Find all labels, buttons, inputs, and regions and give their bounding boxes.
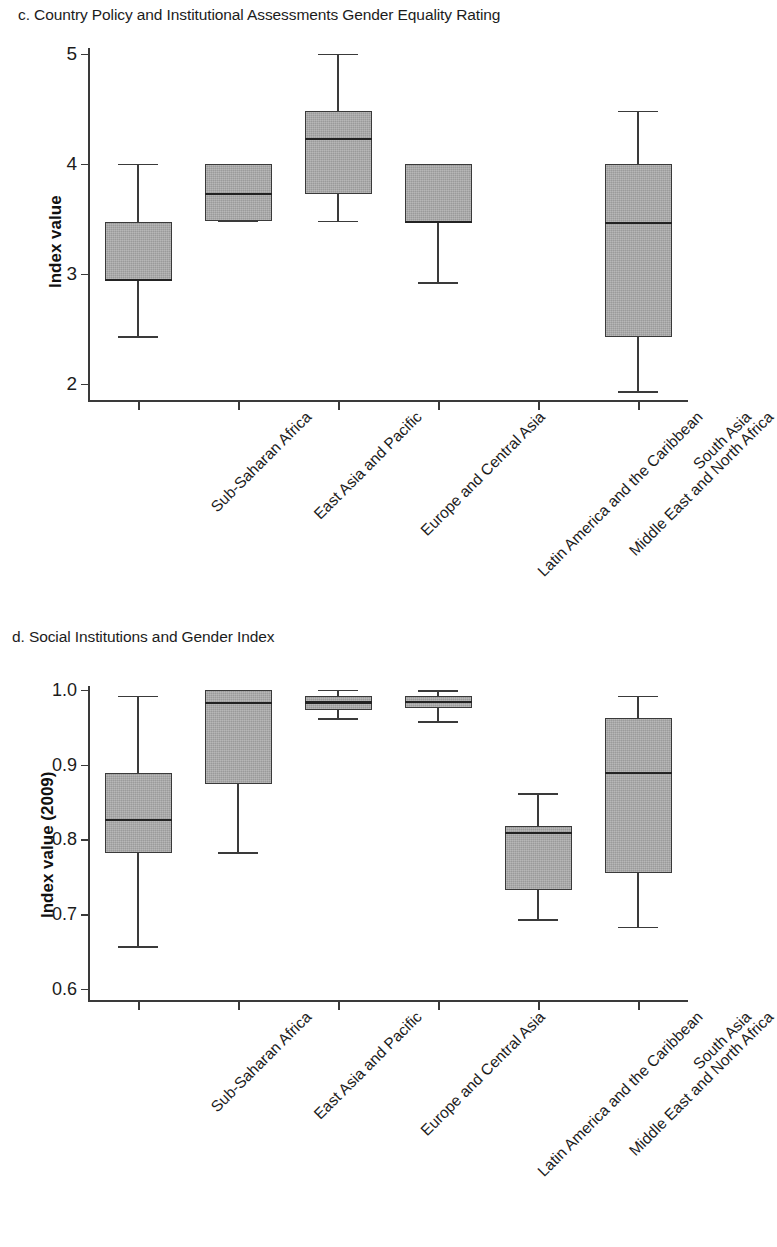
x-axis-tick (538, 1002, 540, 1010)
x-axis-category-label: Sub-Saharan Africa (207, 1008, 315, 1116)
x-axis-tick (238, 402, 240, 410)
box (605, 164, 672, 338)
whisker-cap-upper (618, 111, 658, 113)
y-axis-tick-label: 4 (66, 153, 77, 175)
median-line (205, 702, 272, 704)
median-line (305, 138, 372, 140)
y-axis-tick-label: 2 (66, 373, 77, 395)
x-axis-tick (238, 1002, 240, 1010)
whisker-cap-lower (318, 221, 358, 223)
x-axis-category-label: East Asia and Pacific (310, 1008, 425, 1123)
y-axis-tick-label: 5 (66, 43, 77, 65)
y-axis-title: Index value (46, 195, 66, 288)
median-line (605, 222, 672, 224)
y-axis-tick (81, 839, 88, 841)
boxplot-chart-c: 2345Index valueSub-Saharan AfricaEast As… (0, 0, 696, 420)
whisker-cap-upper (418, 690, 458, 692)
whisker-cap-lower (118, 336, 158, 338)
whisker-cap-upper (318, 690, 358, 692)
x-axis-line (88, 1000, 688, 1002)
box (605, 718, 672, 873)
x-axis-tick (138, 402, 140, 410)
y-axis-tick (81, 690, 88, 692)
whisker-cap-lower (318, 718, 358, 720)
y-axis-tick (81, 54, 88, 56)
whisker-cap-lower (418, 282, 458, 284)
median-line (305, 701, 372, 703)
x-axis-category-label: Middle East and North Africa (626, 408, 777, 560)
whisker-cap-lower (618, 927, 658, 929)
y-axis-tick (81, 765, 88, 767)
median-line (105, 279, 172, 281)
x-axis-category-label: Middle East and North Africa (626, 1008, 777, 1160)
x-axis-line (88, 400, 688, 402)
median-line (405, 701, 472, 703)
median-line (505, 832, 572, 834)
x-axis-tick (438, 402, 440, 410)
whisker-cap-upper (518, 793, 558, 795)
y-axis-title: Index value (2009) (38, 772, 58, 918)
median-line (105, 819, 172, 821)
median-line (605, 772, 672, 774)
median-line (205, 193, 272, 195)
box (105, 773, 172, 853)
x-axis-category-label: East Asia and Pacific (310, 408, 425, 523)
x-axis-category-label: Sub-Saharan Africa (207, 408, 315, 516)
whisker-cap-upper (618, 696, 658, 698)
y-axis-tick (81, 274, 88, 276)
y-axis-tick-label: 3 (66, 263, 77, 285)
x-axis-category-label: Europe and Central Asia (417, 408, 549, 540)
whisker-cap-lower (118, 946, 158, 948)
x-axis-tick (338, 402, 340, 410)
y-axis-tick-label: 0.6 (52, 978, 77, 999)
x-axis-tick (438, 1002, 440, 1010)
whisker-cap-lower (218, 221, 258, 223)
y-axis-tick (81, 989, 88, 991)
y-axis-tick (81, 914, 88, 916)
whisker-cap-upper (118, 164, 158, 166)
x-axis-tick (538, 402, 540, 410)
x-axis-tick (138, 1002, 140, 1010)
y-axis-line (88, 686, 90, 1000)
whisker-cap-lower (518, 919, 558, 921)
box (305, 111, 372, 195)
box (505, 826, 572, 890)
x-axis-category-label: Europe and Central Asia (417, 1008, 549, 1140)
median-line (405, 221, 472, 223)
whisker-cap-lower (418, 721, 458, 723)
whisker-cap-upper (318, 54, 358, 56)
x-axis-tick (638, 402, 640, 410)
y-axis-tick (81, 164, 88, 166)
box (105, 222, 172, 280)
box (205, 690, 272, 783)
y-axis-tick (81, 384, 88, 386)
panel-social-institutions-gender-index: d. Social Institutions and Gender Index … (0, 618, 696, 1247)
y-axis-tick-label: 1.0 (52, 679, 77, 700)
box (205, 164, 272, 221)
x-axis-tick (338, 1002, 340, 1010)
panel-cpia-gender-equality: c. Country Policy and Institutional Asse… (0, 0, 696, 610)
boxplot-chart-d: 0.60.70.80.91.0Index value (2009)Sub-Sah… (0, 618, 696, 1018)
y-axis-line (88, 48, 90, 400)
whisker-cap-lower (218, 852, 258, 854)
x-axis-tick (638, 1002, 640, 1010)
box (405, 164, 472, 222)
whisker-cap-upper (118, 696, 158, 698)
whisker-cap-lower (618, 391, 658, 393)
